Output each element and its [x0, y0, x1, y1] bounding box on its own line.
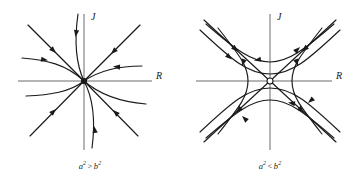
- trajectory-curve: [22, 58, 84, 81]
- y-axis-label: J: [277, 11, 282, 22]
- trajectory-curve: [84, 66, 142, 81]
- panel-stable-node: J R: [0, 0, 180, 191]
- caption-saddle-point: a2<b2: [180, 160, 360, 171]
- equilibrium-point: [81, 78, 87, 84]
- caption-stable-node: a2>b2: [0, 160, 180, 171]
- trajectory-curve: [84, 81, 94, 148]
- stable-node-plot: J R: [0, 0, 180, 160]
- phase-portrait-figure: J R: [0, 0, 360, 191]
- trajectory-ray: [30, 81, 84, 136]
- caption-relation: >: [86, 161, 93, 171]
- direction-arrow: [91, 126, 97, 134]
- trajectory-curve: [26, 81, 84, 96]
- saddle-point-plot: J R: [180, 0, 360, 160]
- y-axis-label: J: [91, 11, 96, 22]
- caption-relation: <: [266, 161, 273, 171]
- panel-saddle-point: J R: [180, 0, 360, 191]
- x-axis-label: R: [335, 70, 342, 81]
- trajectory-curve: [84, 81, 146, 104]
- equilibrium-point: [267, 78, 273, 84]
- x-axis-label: R: [155, 70, 162, 81]
- trajectory-curve: [76, 14, 84, 81]
- direction-arrow: [240, 114, 249, 123]
- direction-arrow: [254, 57, 262, 63]
- caption-b-exponent: 2: [278, 160, 281, 166]
- caption-b-exponent: 2: [98, 160, 101, 166]
